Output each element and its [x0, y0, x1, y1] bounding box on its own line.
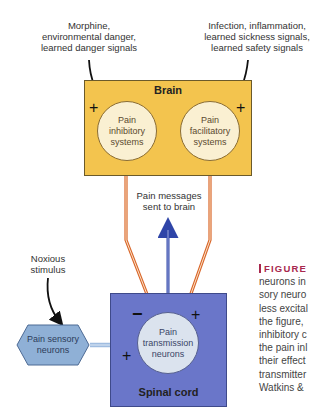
label-line: learned danger signals	[14, 42, 164, 53]
label-line: Morphine,	[14, 20, 164, 31]
caption-title-row: FIGURE	[259, 262, 316, 275]
facilitatory-plus-sign: +	[236, 100, 245, 116]
circle-text: inhibitory	[109, 126, 145, 137]
circle-text: transmission	[143, 338, 194, 349]
caption-line: sory neuro	[259, 288, 316, 301]
caption-line: the figure,	[259, 315, 316, 328]
label-line: Noxious	[18, 253, 78, 264]
circle-text: systems	[190, 137, 231, 148]
top-left-label: Morphine, environmental danger, learned …	[14, 20, 164, 53]
label-line: sent to brain	[124, 201, 214, 212]
pain-facilitatory-systems: Pain facilitatory systems	[180, 101, 240, 161]
caption-title: FIGURE	[264, 263, 307, 274]
inhibitory-minus-sign: −	[132, 306, 143, 322]
pathway-label: Pain messages sent to brain	[124, 190, 214, 212]
pain-inhibitory-systems: Pain inhibitory systems	[97, 101, 157, 161]
caption-line: their effect	[259, 354, 316, 367]
inhibitory-plus-sign: +	[89, 100, 98, 116]
circle-text: facilitatory	[190, 126, 231, 137]
label-line: learned sickness signals,	[202, 31, 312, 42]
circle-text: Pain	[143, 327, 194, 338]
caption-line: inhibitory c	[259, 328, 316, 341]
hex-text-line: Pain sensory	[27, 334, 79, 345]
pain-transmission-neurons: Pain transmission neurons	[137, 312, 199, 374]
caption-line: the pain inl	[259, 341, 316, 354]
brain-title: Brain	[84, 84, 252, 96]
noxious-stimulus-label: Noxious stimulus	[18, 253, 78, 275]
caption-line: transmitter	[259, 368, 316, 381]
caption-line: Watkins &	[259, 381, 316, 394]
figure-caption: FIGURE neurons in sory neuro less excita…	[259, 262, 316, 394]
caption-bar	[259, 264, 261, 273]
label-line: learned safety signals	[202, 42, 312, 53]
spinal-cord-title: Spinal cord	[110, 386, 227, 398]
hex-text-line: neurons	[27, 345, 79, 356]
pain-sensory-neurons: Pain sensory neurons	[16, 324, 90, 366]
top-right-label: Infection, inflammation, learned sicknes…	[202, 20, 312, 53]
caption-line: less excital	[259, 302, 316, 315]
inhibitory-descending-pathway	[126, 161, 156, 312]
sensory-plus-sign: +	[122, 348, 131, 364]
label-line: Pain messages	[124, 190, 214, 201]
label-line: environmental danger,	[14, 31, 164, 42]
caption-line: neurons in	[259, 275, 316, 288]
circle-text: systems	[109, 137, 145, 148]
label-line: Infection, inflammation,	[202, 20, 312, 31]
stimulus-arrow	[48, 278, 61, 322]
label-line: stimulus	[18, 264, 78, 275]
facilitatory-plus-sign-spinal: +	[191, 307, 200, 323]
circle-text: Pain	[190, 115, 231, 126]
circle-text: neurons	[143, 349, 194, 360]
circle-text: Pain	[109, 115, 145, 126]
facilitatory-descending-pathway	[183, 161, 210, 312]
